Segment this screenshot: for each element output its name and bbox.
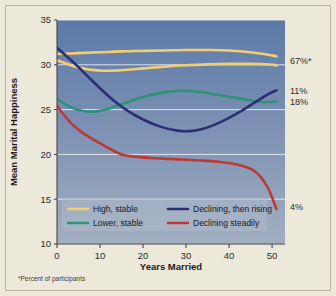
chart-legend: High, stableDeclining, then risingLower,… xyxy=(62,198,272,231)
x-tick-label-30: 30 xyxy=(181,250,192,261)
x-tick-label-40: 40 xyxy=(224,250,235,261)
side-label-18pct: 18% xyxy=(290,97,308,107)
x-tick-label-20: 20 xyxy=(138,250,149,261)
marital-happiness-line-chart: 101520253035 01020304050 Mean Marital Ha… xyxy=(0,0,336,296)
legend-label-high-stable: High, stable xyxy=(93,204,138,214)
x-axis-ticks: 01020304050 xyxy=(54,244,277,261)
y-tick-label-10: 10 xyxy=(40,238,51,249)
side-label-67pct: 67%* xyxy=(290,56,312,66)
y-tick-label-35: 35 xyxy=(40,14,51,25)
side-label-4pct: 4% xyxy=(290,202,303,212)
side-percentage-labels: 67%*11%18%4% xyxy=(290,56,312,212)
legend-label-declining-then-rising: Declining, then rising xyxy=(193,204,272,214)
legend-label-lower-stable: Lower, stable xyxy=(93,218,143,228)
x-tick-label-10: 10 xyxy=(95,250,106,261)
y-tick-label-25: 25 xyxy=(40,104,51,115)
x-axis-title: Years Married xyxy=(140,261,203,272)
y-tick-label-20: 20 xyxy=(40,149,51,160)
y-axis-title: Mean Marital Happiness xyxy=(8,78,19,186)
y-tick-label-30: 30 xyxy=(40,59,51,70)
side-label-11pct: 11% xyxy=(290,86,307,96)
y-axis-ticks: 101520253035 xyxy=(40,14,57,249)
legend-label-declining-steadily: Declining steadily xyxy=(193,218,260,228)
x-tick-label-0: 0 xyxy=(54,250,59,261)
footnote: *Percent of participants xyxy=(18,275,86,283)
chart-figure: 101520253035 01020304050 Mean Marital Ha… xyxy=(0,0,336,296)
x-tick-label-50: 50 xyxy=(267,250,278,261)
y-tick-label-15: 15 xyxy=(40,194,51,205)
